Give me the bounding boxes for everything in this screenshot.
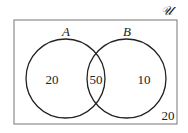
universe-label: 𝒰 <box>161 3 177 18</box>
region-only-b: 10 <box>138 72 151 87</box>
venn-diagram: 𝒰 A B 20 50 10 20 <box>0 0 188 133</box>
region-only-a: 20 <box>46 72 59 87</box>
region-outside: 20 <box>162 108 175 123</box>
set-b-label: B <box>123 24 131 39</box>
region-a-and-b: 50 <box>90 72 103 87</box>
set-a-label: A <box>61 24 70 39</box>
